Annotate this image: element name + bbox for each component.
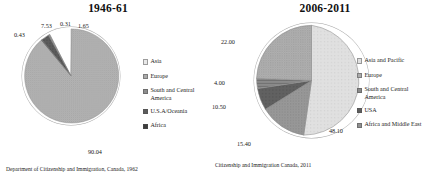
- value-label-africa: 0.43: [14, 31, 25, 38]
- legend-item-asia[interactable]: Asia: [143, 58, 212, 65]
- value-label-asia-pacific: 48.10: [329, 127, 343, 134]
- legend-item-usa-oceania[interactable]: U.S.A/Oceania: [143, 108, 212, 115]
- pie-graphic-right: [254, 23, 369, 138]
- legend-swatch-icon-usa: [357, 108, 362, 113]
- legend-item-africa[interactable]: Africa: [143, 122, 212, 129]
- legend-swatch-icon-africa: [143, 124, 148, 129]
- value-label-south-central: 1.65: [78, 22, 89, 29]
- legend-item-europe[interactable]: Europe: [357, 72, 426, 79]
- value-label-europe: 22.00: [221, 38, 235, 45]
- legend-swatch-icon-africa-middle-east: [357, 123, 362, 128]
- legend-swatch-icon-asia: [143, 59, 148, 64]
- legend-swatch-icon-south-central: [357, 88, 362, 93]
- legend-item-south-central[interactable]: South and Central America: [143, 87, 212, 101]
- legend-swatch-icon-europe: [357, 73, 362, 78]
- legend-right: Asia and Pacific Europe South and Centra…: [357, 57, 426, 136]
- pie-chart-1946-61: [22, 27, 120, 125]
- source-caption-right: Citizenship and Immigration Canada, 2011: [215, 162, 311, 168]
- chart-panel-2006-2011: 2006-2011: [217, 0, 433, 184]
- pie-graphic-left: [22, 27, 120, 125]
- legend-item-europe[interactable]: Europe: [143, 73, 212, 80]
- legend-swatch-icon-europe: [143, 74, 148, 79]
- legend-label-asia-pacific: Asia and Pacific: [364, 57, 404, 64]
- pie-svg-left: [22, 27, 120, 125]
- legend-left: Asia Europe South and Central America U.…: [143, 58, 212, 137]
- legend-label-europe: Europe: [150, 73, 168, 80]
- page-title-right: 2006-2011: [217, 2, 433, 14]
- legend-label-south-central: South and Central America: [150, 87, 212, 101]
- pie-svg-right: [254, 23, 369, 138]
- legend-label-asia: Asia: [150, 58, 161, 65]
- value-label-asia: 0.31: [60, 20, 71, 27]
- legend-label-africa: Africa: [150, 122, 166, 129]
- legend-item-asia-pacific[interactable]: Asia and Pacific: [357, 57, 426, 64]
- legend-label-europe: Europe: [364, 72, 382, 79]
- legend-label-usa-oceania: U.S.A/Oceania: [150, 108, 187, 115]
- legend-item-usa[interactable]: USA: [357, 107, 426, 114]
- legend-label-africa-middle-east: Africa and Middle East: [364, 121, 421, 128]
- value-label-africa-middle-east: 15.40: [237, 140, 251, 147]
- value-label-europe: 90.04: [88, 148, 102, 155]
- legend-swatch-icon-south-central: [143, 89, 148, 94]
- value-label-usa: 10.50: [212, 103, 226, 110]
- legend-item-south-central[interactable]: South and Central America: [357, 86, 426, 100]
- legend-label-usa: USA: [364, 107, 376, 114]
- pie-chart-2006-2011: [254, 23, 369, 138]
- value-label-south-central: 4.00: [214, 79, 225, 86]
- chart-panel-1946-61: 1946-61: [0, 0, 216, 184]
- value-label-usa-oceania: 7.53: [41, 22, 52, 29]
- legend-label-south-central: South and Central America: [364, 86, 426, 100]
- legend-swatch-icon-asia-pacific: [357, 58, 362, 63]
- source-caption-left: Department of Citizenship and Immigratio…: [6, 166, 138, 172]
- legend-swatch-icon-usa-oceania: [143, 109, 148, 114]
- legend-item-africa-middle-east[interactable]: Africa and Middle East: [357, 121, 426, 128]
